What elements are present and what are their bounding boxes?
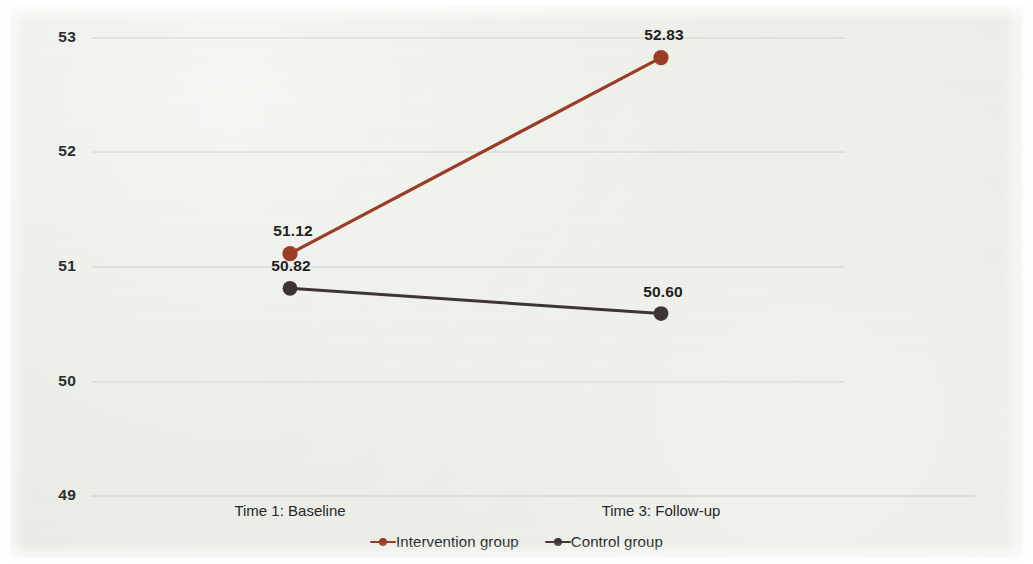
series-intervention-group [282, 50, 668, 261]
gridlines [92, 38, 975, 496]
x-axis-category-baseline: Time 1: Baseline [234, 502, 345, 519]
value-label-intervention-t1: 51.12 [273, 222, 312, 240]
y-axis-tick-52: 52 [40, 142, 76, 160]
x-axis-category-followup: Time 3: Follow-up [602, 502, 721, 519]
series-line-control [290, 288, 661, 313]
value-label-control-t3: 50.60 [643, 283, 682, 301]
y-axis-tick-51: 51 [40, 257, 76, 275]
y-axis-tick-49: 49 [40, 486, 76, 504]
y-axis-tick-50: 50 [40, 372, 76, 390]
y-axis-tick-53: 53 [40, 28, 76, 46]
value-label-intervention-t3: 52.83 [644, 26, 683, 44]
datapoint-intervention-t3 [653, 50, 668, 65]
datapoint-control-t3 [654, 306, 669, 321]
series-line-intervention [290, 58, 661, 254]
value-label-control-t1: 50.82 [271, 257, 310, 275]
series-control-group [283, 281, 669, 321]
line-chart-svg [0, 0, 1033, 564]
chart-figure: 53 52 51 50 49 51.12 52.83 50.82 50.60 T… [0, 0, 1033, 564]
datapoint-control-t1 [283, 281, 298, 296]
